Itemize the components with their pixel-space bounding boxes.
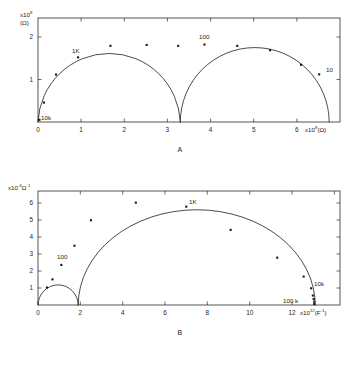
x-tick-2: 2 <box>123 126 127 133</box>
annotation-10: 10 <box>326 66 333 73</box>
x-axis-label-mantissa: x10 <box>300 309 311 316</box>
annotation-1k: 1K <box>72 47 80 54</box>
y-axis-label-unit-exponent: -1 <box>26 183 30 188</box>
panel-a-annotations: 10k 1K 100 10 <box>41 33 333 121</box>
panel-b-frame <box>38 191 340 305</box>
panel-a: 0 1 2 3 4 5 6 1 2 x108 (Ω) x108(Ω) <box>0 0 360 183</box>
panel-a-fitted-curves <box>38 48 329 122</box>
panel-b-x-ticklabels: 0 2 4 6 8 10 12 <box>36 309 296 316</box>
annotation-1k: 1K <box>189 198 197 205</box>
panel-a-y-ticklabels: 1 2 <box>29 33 33 83</box>
panel-a-data-points <box>38 44 320 121</box>
panel-a-caption: A <box>178 146 183 153</box>
data-point <box>230 229 232 231</box>
x-tick-0: 0 <box>36 126 40 133</box>
y-tick-6: 6 <box>29 199 33 206</box>
panel-a-top-ticks <box>81 18 297 22</box>
x-tick-4: 4 <box>209 126 213 133</box>
data-point <box>43 102 45 104</box>
y-axis-label-mantissa: x10 <box>20 11 31 18</box>
panel-b-y-ticks <box>38 203 42 288</box>
data-point <box>269 49 271 51</box>
panel-a-x-axis-label: x108(Ω) <box>305 125 326 133</box>
x-tick-12: 12 <box>288 309 296 316</box>
x-tick-10: 10 <box>246 309 254 316</box>
panel-b-right-ticks <box>337 203 341 288</box>
x-tick-0: 0 <box>36 309 40 316</box>
panel-b-y-ticklabels: 1 2 3 4 5 6 <box>29 199 33 291</box>
panel-b-fitted-curves <box>38 210 315 305</box>
data-point <box>146 44 148 46</box>
panel-b: 0 2 4 6 8 10 12 1 2 3 4 5 6 x10-6Ω-1 <box>0 183 360 366</box>
panel-b-data-points <box>46 202 315 306</box>
panel-a-x-ticks <box>38 119 297 123</box>
figure-root: 0 1 2 3 4 5 6 1 2 x108 (Ω) x108(Ω) <box>0 0 360 366</box>
data-point <box>55 74 57 76</box>
data-point <box>135 202 137 204</box>
panel-a-plot: 0 1 2 3 4 5 6 1 2 x108 (Ω) x108(Ω) <box>0 0 360 183</box>
panel-a-right-ticks <box>337 37 341 80</box>
data-point <box>276 257 278 259</box>
y-tick-5: 5 <box>29 216 33 223</box>
x-tick-4: 4 <box>121 309 125 316</box>
annotation-10k: 10k <box>314 280 325 287</box>
panel-a-y-axis-label: x108 (Ω) <box>20 10 33 26</box>
y-tick-4: 4 <box>29 233 33 240</box>
panel-b-annotations: 100 1K 10k 100 k <box>57 198 325 304</box>
panel-b-y-axis-label: x10-6Ω-1 <box>8 183 31 191</box>
x-tick-6: 6 <box>295 126 299 133</box>
x-axis-label-unit: (Ω) <box>317 126 326 133</box>
panel-a-y-ticks <box>38 37 42 80</box>
panel-b-plot: 0 2 4 6 8 10 12 1 2 3 4 5 6 x10-6Ω-1 <box>0 183 360 366</box>
x-tick-3: 3 <box>166 126 170 133</box>
panel-b-x-ticks <box>38 302 292 306</box>
data-point <box>73 245 75 247</box>
data-point <box>313 301 315 303</box>
x-tick-8: 8 <box>206 309 210 316</box>
x-tick-2: 2 <box>79 309 83 316</box>
svg-text:x108(Ω): x108(Ω) <box>305 125 326 133</box>
y-axis-label-unit: (Ω) <box>20 19 29 26</box>
data-point <box>90 219 92 221</box>
x-axis-label-unit-close: ) <box>324 309 326 316</box>
data-point <box>185 206 187 208</box>
svg-text:x1012(F-1): x1012(F-1) <box>300 308 327 316</box>
data-point <box>236 45 238 47</box>
data-point <box>77 56 79 58</box>
data-point <box>318 73 320 75</box>
panel-b-caption: B <box>178 329 183 336</box>
annotation-100k: 100 k <box>283 297 299 304</box>
svg-text:x108: x108 <box>20 10 33 18</box>
x-axis-label-mantissa: x10 <box>305 126 316 133</box>
annotation-10k: 10k <box>41 114 52 121</box>
panel-b-x-axis-label: x1012(F-1) <box>300 308 327 316</box>
x-tick-6: 6 <box>163 309 167 316</box>
annotation-100: 100 <box>57 253 68 260</box>
data-point <box>303 276 305 278</box>
y-tick-1: 1 <box>29 284 33 291</box>
data-point <box>300 64 302 66</box>
data-point <box>46 287 48 289</box>
data-point <box>51 278 53 280</box>
y-tick-3: 3 <box>29 250 33 257</box>
svg-text:x10-6Ω-1: x10-6Ω-1 <box>8 183 31 191</box>
y-tick-1: 1 <box>29 76 33 83</box>
y-axis-label-mantissa: x10 <box>8 184 19 191</box>
data-point <box>109 45 111 47</box>
data-point <box>313 303 315 305</box>
data-point <box>177 45 179 47</box>
data-point <box>310 287 312 289</box>
data-point <box>60 264 62 266</box>
x-tick-1: 1 <box>79 126 83 133</box>
panel-a-frame <box>38 18 340 122</box>
data-point <box>313 298 315 300</box>
y-axis-label-exponent: 8 <box>30 10 33 15</box>
data-point <box>203 44 205 46</box>
y-tick-2: 2 <box>29 33 33 40</box>
y-tick-2: 2 <box>29 267 33 274</box>
data-point <box>312 295 314 297</box>
x-tick-5: 5 <box>252 126 256 133</box>
panel-b-top-ticks <box>80 191 334 195</box>
panel-a-x-ticklabels: 0 1 2 3 4 5 6 <box>36 126 299 133</box>
annotation-100: 100 <box>199 33 210 40</box>
